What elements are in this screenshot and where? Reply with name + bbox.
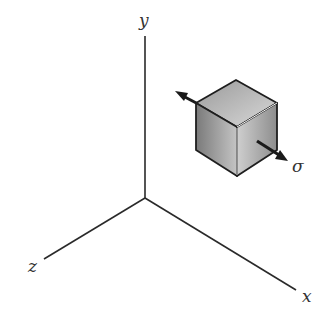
y-axis-label: y	[138, 10, 149, 30]
stress-element-cube	[196, 80, 277, 176]
x-axis-label: x	[302, 286, 312, 306]
z-axis-label: z	[27, 256, 38, 276]
z-axis	[44, 198, 145, 259]
diagram-canvas: y z x σ	[0, 0, 321, 312]
sigma-label: σ	[292, 156, 304, 176]
x-axis	[145, 198, 296, 290]
